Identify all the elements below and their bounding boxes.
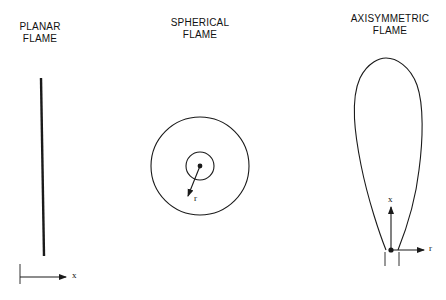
flame-geometry-diagram: [0, 0, 446, 300]
planar-x-axis-label: x: [72, 270, 77, 280]
spherical-radius-label: r: [194, 193, 197, 203]
axisymmetric-origin-dot: [388, 247, 393, 252]
axisymmetric-flame-front: [354, 58, 422, 250]
planar-flame-front: [41, 78, 44, 256]
axisymmetric-x-axis-label: x: [388, 194, 393, 204]
spherical-radius-arrow: [188, 166, 200, 196]
axisymmetric-r-axis-label: r: [429, 243, 432, 253]
